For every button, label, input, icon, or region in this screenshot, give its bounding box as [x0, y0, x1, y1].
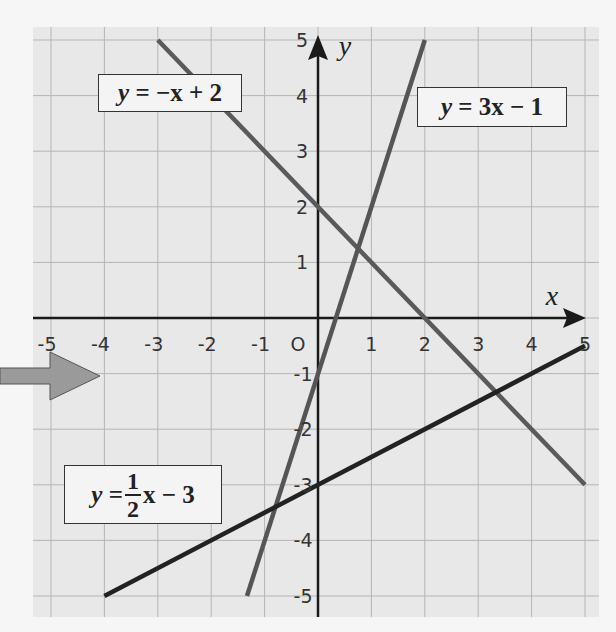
x-tick-label: 5: [579, 333, 591, 355]
equation-label-neg-x-plus-2: y = −x + 2: [98, 74, 242, 112]
y-tick-label: 3: [296, 140, 308, 162]
y-tick-label: -4: [294, 529, 313, 551]
eq-rest: 3x − 1: [479, 93, 543, 121]
y-tick-label: 1: [296, 251, 308, 273]
eq-equals: =: [135, 79, 149, 107]
y-tick-label: 4: [296, 85, 308, 107]
fraction-one-half: 1 2: [125, 469, 141, 521]
fraction-denominator: 2: [127, 496, 139, 521]
eq-rest: −x + 2: [156, 79, 222, 107]
equation-label-3x-minus-1: y = 3x − 1: [417, 87, 567, 127]
eq-rest: x − 3: [143, 481, 195, 509]
x-tick-label: 3: [472, 333, 484, 355]
x-tick-label: -3: [144, 333, 163, 355]
x-tick-label: -5: [38, 333, 57, 355]
eq-equals: =: [458, 93, 472, 121]
coordinate-graph: -5-4-3-2-11234554321-1-2-3-4-5 x y O y =…: [0, 0, 616, 632]
y-tick-label: -1: [294, 363, 313, 385]
y-tick-label: -5: [294, 585, 313, 607]
eq-y: y: [118, 79, 129, 107]
x-axis-label: x: [546, 280, 558, 312]
equation-label-half-x-minus-3: y = 1 2 x − 3: [64, 465, 222, 524]
x-tick-label: -1: [251, 333, 270, 355]
x-tick-label: 1: [365, 333, 377, 355]
x-tick-label: 4: [526, 333, 538, 355]
y-tick-label: -3: [294, 474, 313, 496]
eq-y: y: [91, 481, 102, 509]
y-axis-label: y: [339, 30, 351, 62]
y-tick-label: 5: [296, 29, 308, 51]
y-tick-label: 2: [296, 196, 308, 218]
x-tick-label: -2: [198, 333, 217, 355]
eq-y: y: [441, 93, 452, 121]
fraction-numerator: 1: [125, 469, 141, 496]
eq-equals: =: [109, 481, 123, 509]
y-tick-label: -2: [294, 418, 313, 440]
x-tick-label: -4: [91, 333, 110, 355]
x-tick-label: 2: [419, 333, 431, 355]
origin-label: O: [291, 333, 306, 355]
